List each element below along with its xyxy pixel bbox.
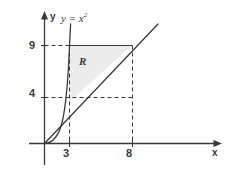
plot-canvas: [0, 0, 228, 169]
straight-line-curve: [45, 24, 159, 144]
parabola-equation-exponent: 2: [84, 11, 88, 19]
parabola-curve: [45, 24, 71, 144]
math-figure: 9 4 3 8 y x y = x2 R: [0, 0, 228, 169]
region-label-R: R: [79, 56, 86, 67]
y-axis-arrow-icon: [41, 11, 48, 20]
y-axis-label: y: [50, 12, 56, 22]
x-axis-arrow-icon: [214, 140, 223, 147]
x-axis-label: x: [212, 148, 218, 158]
x-tick-label-3: 3: [63, 148, 69, 159]
shaded-region-R: [70, 46, 133, 102]
y-tick-label-9: 9: [29, 40, 35, 51]
x-tick-label-8: 8: [126, 148, 132, 159]
y-tick-label-4: 4: [29, 88, 35, 99]
parabola-equation-base: y = x: [61, 12, 84, 24]
parabola-equation-label: y = x2: [61, 12, 87, 24]
